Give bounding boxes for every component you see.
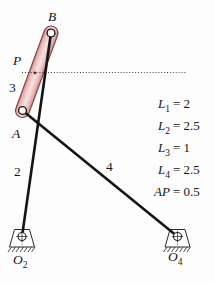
equation-l2-sub: 2 bbox=[165, 126, 170, 136]
ground-label-o2: O2 bbox=[13, 253, 28, 267]
equation-ap: AP= 0.5 bbox=[154, 181, 200, 203]
equation-l2-value: = 2.5 bbox=[173, 118, 200, 133]
equation-ap-var: AP bbox=[154, 184, 170, 199]
pin-joint-a bbox=[19, 107, 27, 115]
ground-label-o4-base: O bbox=[168, 249, 178, 264]
link-label-2: 2 bbox=[14, 165, 21, 179]
equation-l1-value: = 2 bbox=[173, 96, 190, 111]
point-label-b: B bbox=[48, 10, 56, 24]
ground-label-o2-sub: 2 bbox=[23, 260, 28, 270]
equation-l1-sub: 1 bbox=[165, 104, 170, 114]
point-label-p: P bbox=[13, 54, 21, 68]
equation-l3-value: = 1 bbox=[173, 140, 190, 155]
equation-l3-sub: 3 bbox=[165, 148, 170, 158]
equation-l4-sub: 4 bbox=[165, 170, 170, 180]
fourbar-linkage-figure: B P 3 A 2 4 O2 O4 L1= 2 L2= 2.5 L3= 1 L4… bbox=[0, 0, 215, 283]
ground-label-o4: O4 bbox=[168, 250, 183, 264]
ground-label-o2-base: O bbox=[13, 252, 23, 267]
equations-block: L1= 2 L2= 2.5 L3= 1 L4= 2.5 AP= 0.5 bbox=[154, 93, 200, 203]
ground-label-o4-sub: 4 bbox=[178, 257, 183, 267]
equation-l3: L3= 1 bbox=[154, 137, 200, 159]
pin-joint-b bbox=[47, 29, 55, 37]
equation-l4: L4= 2.5 bbox=[154, 159, 200, 181]
point-label-a: A bbox=[12, 127, 20, 141]
coupler-link-3 bbox=[14, 24, 60, 119]
equation-l1: L1= 2 bbox=[154, 93, 200, 115]
link-label-3: 3 bbox=[9, 81, 16, 95]
equation-l4-value: = 2.5 bbox=[173, 162, 200, 177]
coupler-point-p bbox=[34, 72, 37, 75]
equation-l2: L2= 2.5 bbox=[154, 115, 200, 137]
equation-ap-value: = 0.5 bbox=[173, 184, 200, 199]
link-label-4: 4 bbox=[106, 160, 113, 174]
